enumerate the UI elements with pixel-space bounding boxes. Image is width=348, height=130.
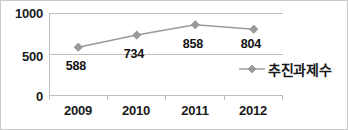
x-axis-tick-1	[107, 96, 108, 100]
legend-label: 추진과제수	[268, 59, 332, 79]
data-label-2012: 804	[226, 37, 276, 51]
data-label-2009: 588	[51, 59, 101, 73]
y-axis-label-1000: 1000	[0, 6, 43, 21]
x-axis-label-2012: 2012	[224, 103, 282, 118]
x-axis-label-2011: 2011	[166, 103, 224, 118]
y-axis-label-0: 0	[0, 89, 43, 104]
x-axis-tick-0	[49, 96, 50, 100]
data-point-2011	[191, 21, 199, 29]
data-point-2010	[133, 31, 141, 39]
data-point-2012	[250, 25, 258, 33]
y-axis-label-500: 500	[0, 49, 43, 64]
x-axis-tick-3	[224, 96, 225, 100]
data-label-2011: 858	[168, 37, 218, 51]
x-axis-tick-2	[165, 96, 166, 100]
chart-container: 1000 500 0 588 734 858 804 2009 2010 201…	[0, 0, 348, 130]
x-axis-tick-4	[282, 96, 283, 100]
data-point-2009	[74, 43, 82, 51]
x-axis-label-2009: 2009	[49, 103, 107, 118]
x-axis-label-2010: 2010	[107, 103, 165, 118]
diamond-marker-icon	[239, 63, 265, 75]
plot-area	[49, 13, 283, 96]
chart-legend[interactable]: 추진과제수	[239, 59, 332, 79]
data-label-2010: 734	[109, 47, 159, 61]
series-line-chart	[49, 13, 283, 96]
